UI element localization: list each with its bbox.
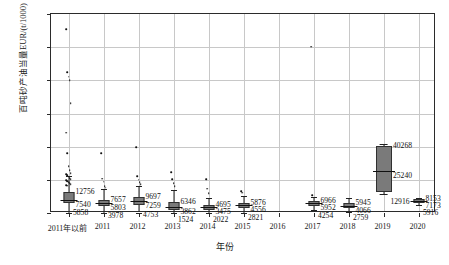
outlier-point [68, 76, 70, 78]
box-value-label: 7259 [146, 200, 161, 209]
box-value-label: 25240 [393, 171, 412, 180]
outlier-point [171, 171, 173, 173]
x-tick-label: 2015 [235, 222, 251, 231]
x-gridline [279, 14, 280, 211]
y-tick-mark [47, 213, 51, 214]
median-line [340, 206, 357, 207]
outlier-point [70, 178, 72, 180]
outlier-point [136, 146, 138, 148]
y-tick-mark [47, 114, 51, 115]
y-tick-mark [47, 180, 51, 181]
outlier-point [206, 178, 208, 180]
x-tick-mark [244, 213, 245, 217]
x-axis-title: 年份 [0, 240, 449, 253]
y-gridline [51, 114, 434, 115]
x-gridline [349, 14, 350, 211]
outlier-point [172, 179, 174, 181]
median-line [200, 207, 217, 208]
y-tick-mark [47, 47, 51, 48]
box-value-label: 6346 [181, 197, 196, 206]
chart-root: 百吨砂产油当量EUR/(t/1000) 年份 12756754058587657… [0, 0, 449, 265]
median-line [410, 201, 427, 202]
x-tick-mark [139, 213, 140, 217]
whisker-cap [345, 212, 351, 213]
x-tick-label: 2012 [130, 222, 146, 231]
box-value-label: 2821 [248, 213, 263, 222]
x-tick-label: 2020 [410, 222, 426, 231]
outlier-point [105, 187, 107, 189]
outlier-point [242, 192, 244, 194]
outlier-point [70, 183, 72, 185]
whisker-cap [170, 190, 176, 191]
box-value-label: 5916 [423, 208, 438, 217]
y-tick-mark [47, 80, 51, 81]
x-tick-label: 2019 [375, 222, 391, 231]
box-plot-box [63, 192, 74, 203]
y-axis-title: 百吨砂产油当量EUR/(t/1000) [16, 0, 28, 138]
y-tick-mark [47, 14, 51, 15]
outlier-point [103, 181, 105, 183]
whisker-cap [205, 213, 211, 214]
outlier-point [312, 195, 314, 197]
box-value-label: 3978 [108, 211, 123, 220]
x-gridline [209, 14, 210, 211]
whisker-cap [170, 213, 176, 214]
outlier-point [68, 165, 70, 167]
outlier-point [137, 176, 139, 178]
outlier-point [140, 184, 142, 186]
box-value-label: 3862 [181, 206, 196, 215]
outlier-point [138, 179, 140, 181]
median-line [235, 205, 252, 206]
whisker-cap [345, 198, 351, 199]
outlier-point [66, 132, 68, 134]
x-tick-mark [314, 213, 315, 217]
x-tick-label: 2016 [270, 222, 286, 231]
outlier-point [67, 185, 69, 187]
y-gridline [51, 47, 434, 48]
whisker-cap [415, 205, 421, 206]
outlier-point [70, 102, 72, 104]
plot-area: 1275675405858765758033978969772594753634… [50, 13, 435, 212]
box-plot-box [376, 146, 392, 191]
outlier-point [102, 178, 104, 180]
x-tick-label: 2011 [95, 222, 111, 231]
x-tick-label: 2014 [200, 222, 216, 231]
outlier-point [69, 79, 71, 81]
box-value-label: 9697 [146, 191, 161, 200]
x-tick-mark [104, 213, 105, 217]
outlier-point [173, 182, 175, 184]
whisker-cap [240, 196, 246, 197]
x-tick-label: 2018 [340, 222, 356, 231]
y-gridline [51, 80, 434, 81]
outlier-point [101, 152, 103, 154]
whisker-cap [100, 213, 106, 214]
whisker-cap [310, 197, 316, 198]
outlier-point [67, 71, 69, 73]
whisker-cap [135, 186, 141, 187]
whisker-cap [100, 189, 106, 190]
median-line [60, 200, 77, 201]
median-line [95, 203, 112, 204]
x-tick-mark [384, 213, 385, 217]
x-gridline [314, 14, 315, 211]
box-value-label: 4753 [143, 210, 158, 219]
outlier-point [69, 169, 71, 171]
whisker-cap [379, 194, 388, 195]
box-value-label: 40268 [393, 141, 412, 150]
median-line [165, 207, 182, 208]
whisker-cap [379, 144, 388, 145]
whisker-cap [205, 198, 211, 199]
x-tick-mark [419, 213, 420, 217]
x-gridline [244, 14, 245, 211]
box-value-label: 4254 [318, 210, 333, 219]
outlier-point [207, 188, 209, 190]
whisker-cap [240, 213, 246, 214]
median-line [130, 201, 147, 202]
whisker-cap [310, 210, 316, 211]
x-tick-label: 2017 [305, 222, 321, 231]
outlier-point [311, 46, 313, 48]
outlier-point [208, 192, 210, 194]
whisker-cap [65, 213, 71, 214]
box-value-label: 12756 [76, 186, 95, 195]
y-tick-mark [47, 147, 51, 148]
